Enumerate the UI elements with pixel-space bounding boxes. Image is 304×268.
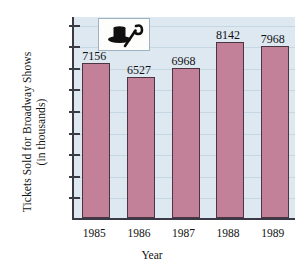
- bar[interactable]: [216, 42, 244, 218]
- y-axis-tick: [69, 176, 80, 178]
- y-axis-tick: [69, 133, 80, 135]
- bar[interactable]: [82, 63, 110, 218]
- bar-value-label: 7156: [70, 49, 118, 64]
- bar-value-label: 8142: [204, 28, 252, 43]
- top-hat-and-cane-icon: [98, 18, 150, 51]
- plot-area: 100020003000400050006000700080009000: [72, 17, 295, 220]
- y-axis-tick: [69, 46, 80, 48]
- y-axis-tick: [69, 111, 80, 113]
- bar[interactable]: [127, 77, 155, 218]
- y-axis-title: Tickets Sold for Broadway Shows (in thou…: [20, 27, 48, 237]
- bar[interactable]: [261, 46, 289, 218]
- y-axis-tick: [69, 68, 80, 70]
- bar-chart-figure: Tickets Sold for Broadway Shows (in thou…: [0, 0, 304, 268]
- y-axis-title-line1: Tickets Sold for Broadway Shows: [21, 52, 33, 212]
- x-axis-title: Year: [0, 249, 304, 261]
- x-axis-tick-label: 1989: [247, 227, 299, 239]
- bar-value-label: 6968: [160, 54, 208, 69]
- bar-value-label: 7968: [249, 32, 297, 47]
- bar-value-label: 6527: [115, 63, 163, 78]
- y-axis-tick: [69, 89, 80, 91]
- y-axis-title-line2: (in thousands): [34, 27, 48, 237]
- y-axis-tick: [69, 154, 80, 156]
- y-axis-tick: [69, 197, 80, 199]
- bar[interactable]: [172, 68, 200, 218]
- y-axis-tick: [69, 25, 80, 27]
